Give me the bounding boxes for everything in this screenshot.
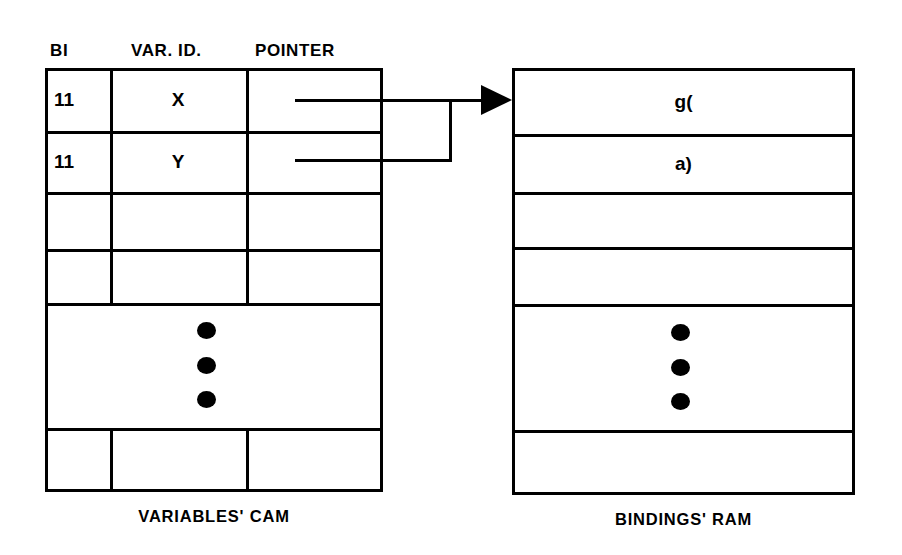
ram-row-separator	[512, 247, 855, 250]
ram-row-separator	[512, 304, 855, 307]
ellipsis-dot	[197, 322, 216, 339]
cam-cell-bi: 11	[45, 68, 110, 131]
pointer-wire-row-y	[295, 159, 452, 162]
cam-row-separator	[45, 303, 383, 306]
cam-header-var-id: VAR. ID.	[131, 42, 202, 59]
pointer-wire-row-x	[295, 99, 452, 102]
cam-vertical-ellipsis	[197, 322, 216, 408]
ellipsis-dot	[671, 359, 690, 376]
ram-cell-value: g(	[512, 68, 855, 134]
cam-cell-bi: 11	[45, 131, 110, 192]
cam-header-bi: BI	[50, 42, 68, 59]
cam-cell-var-id: X	[110, 68, 246, 131]
cam-column-separator	[110, 428, 113, 492]
ellipsis-dot	[197, 357, 216, 374]
diagram-canvas: BI VAR. ID. POINTER 11 X 11 Y VARIABLES'…	[0, 0, 902, 555]
cam-column-separator	[246, 68, 249, 303]
cam-row-separator	[45, 428, 383, 431]
ram-row-separator	[512, 430, 855, 433]
ellipsis-dot	[197, 391, 216, 408]
cam-row-separator	[45, 249, 383, 252]
cam-cell-var-id: Y	[110, 131, 246, 192]
pointer-bus-vertical	[449, 99, 452, 162]
ram-vertical-ellipsis	[671, 324, 690, 410]
ellipsis-dot	[671, 393, 690, 410]
ellipsis-dot	[671, 324, 690, 341]
cam-row-separator	[45, 192, 383, 195]
cam-column-separator	[246, 428, 249, 492]
bindings-ram-caption: BINDINGS' RAM	[512, 511, 855, 528]
ram-cell-value: a)	[512, 134, 855, 192]
ram-row-separator	[512, 192, 855, 195]
variables-cam-caption: VARIABLES' CAM	[45, 508, 383, 525]
pointer-arrowhead-icon	[481, 85, 512, 115]
cam-header-pointer: POINTER	[255, 42, 335, 59]
